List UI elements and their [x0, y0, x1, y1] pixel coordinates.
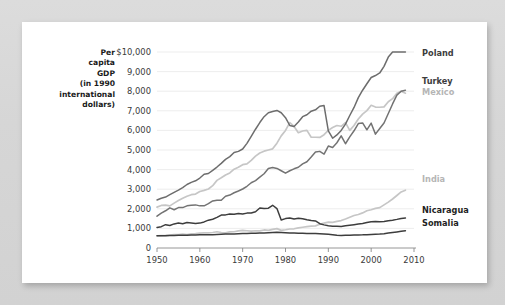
- series-line-poland: [157, 52, 405, 200]
- y-axis-title-line: Per: [101, 48, 116, 57]
- x-tick-label: 2000: [361, 255, 382, 265]
- gridlines: [157, 52, 414, 228]
- y-tick-label: 4,000: [127, 165, 151, 175]
- y-tick-label: 0: [146, 243, 151, 253]
- y-axis-ticks: $10,0009,0008,0007,0006,0005,0004,0003,0…: [116, 47, 151, 253]
- x-tick-label: 1960: [189, 255, 210, 265]
- x-axis: 1950196019701980199020002010: [146, 248, 424, 265]
- series-line-india: [157, 190, 405, 236]
- series-label-mexico: Mexico: [422, 87, 455, 97]
- series-line-mexico: [157, 91, 405, 207]
- series-label-poland: Poland: [422, 48, 454, 58]
- y-tick-label: 7,000: [127, 106, 151, 116]
- series-label-somalia: Somalia: [422, 218, 459, 228]
- y-axis-title-line: dollars): [82, 100, 115, 109]
- y-tick-label: 6,000: [127, 125, 151, 135]
- y-axis-title-line: (in 1990: [80, 79, 115, 88]
- x-tick-label: 2010: [403, 255, 424, 265]
- y-tick-label: 8,000: [127, 86, 151, 96]
- series-label-india: India: [422, 174, 445, 184]
- series-labels: MexicoIndiaPolandTurkeyNicaraguaSomalia: [422, 48, 469, 228]
- y-axis-title-line: international: [59, 90, 115, 99]
- series-label-turkey: Turkey: [422, 76, 453, 86]
- y-tick-label: $10,000: [116, 47, 151, 57]
- y-axis-title: PercapitaGDP(in 1990internationaldollars…: [59, 48, 115, 109]
- data-series: [157, 52, 405, 236]
- y-axis-title-line: capita: [89, 58, 115, 67]
- y-tick-label: 5,000: [127, 145, 151, 155]
- y-tick-label: 1,000: [127, 223, 151, 233]
- x-tick-label: 1990: [318, 255, 339, 265]
- y-axis-title-line: GDP: [97, 69, 116, 78]
- y-tick-label: 9,000: [127, 67, 151, 77]
- x-tick-label: 1980: [275, 255, 296, 265]
- line-chart: $10,0009,0008,0007,0006,0005,0004,0003,0…: [22, 22, 487, 283]
- chart-plot-area: $10,0009,0008,0007,0006,0005,0004,0003,0…: [22, 22, 487, 283]
- chart-card: $10,0009,0008,0007,0006,0005,0004,0003,0…: [22, 22, 487, 283]
- series-label-nicaragua: Nicaragua: [422, 205, 469, 215]
- x-tick-label: 1950: [146, 255, 167, 265]
- y-tick-label: 3,000: [127, 184, 151, 194]
- x-tick-label: 1970: [232, 255, 253, 265]
- y-tick-label: 2,000: [127, 204, 151, 214]
